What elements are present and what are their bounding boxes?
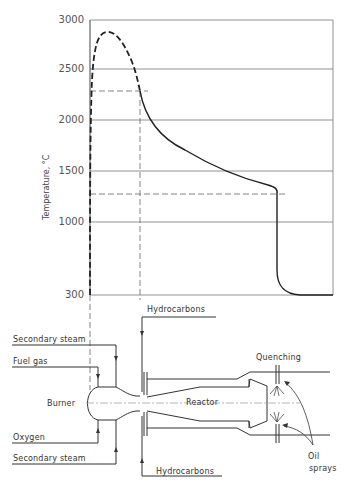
label-secondary-steam-top: Secondary steam (13, 335, 86, 344)
label-burner: Burner (47, 399, 75, 408)
label-fuel-gas: Fuel gas (13, 357, 48, 366)
label-hydrocarbons-top: Hydrocarbons (147, 305, 205, 314)
y-axis-label: Temperature, °C (42, 155, 51, 220)
label-hydrocarbons-bottom: Hydrocarbons (156, 467, 214, 476)
y-tick-2000: 2000 (44, 114, 84, 125)
y-tick-300: 300 (44, 289, 84, 300)
y-tick-2500: 2500 (44, 63, 84, 74)
y-tick-3000: 3000 (44, 14, 84, 25)
label-quenching: Quenching (256, 353, 301, 362)
reference-lines (90, 91, 287, 390)
label-sprays: sprays (309, 464, 337, 473)
label-secondary-steam-bottom: Secondary steam (13, 454, 86, 463)
label-reactor: Reactor (186, 398, 218, 407)
chart-grid (90, 20, 333, 295)
label-oxygen: Oxygen (13, 433, 45, 442)
temperature-curve-reactor-zone (140, 91, 333, 295)
temperature-curve-burner-zone (90, 32, 140, 295)
label-oil: Oil (308, 452, 319, 461)
